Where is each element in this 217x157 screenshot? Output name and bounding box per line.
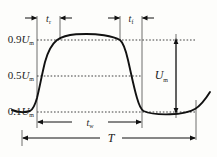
pulse-waveform-figure: 0.9Um 0.5Um 0.1Um tr tf bbox=[0, 0, 217, 157]
label-level-50: 0.5Um bbox=[8, 69, 35, 82]
fall-time-arrowhead-left bbox=[115, 16, 121, 21]
pulse-width-annotation: tw bbox=[37, 117, 142, 129]
y-axis-labels: 0.9Um 0.5Um 0.1Um bbox=[8, 33, 35, 118]
rise-time-annotation: tr bbox=[25, 13, 72, 25]
construction-lines bbox=[37, 16, 196, 140]
amplitude-arrowhead-top bbox=[174, 38, 179, 44]
pulse-waveform-curve bbox=[12, 34, 210, 114]
period-arrowhead-right bbox=[190, 136, 196, 141]
pulse-width-arrowhead-right bbox=[136, 120, 142, 125]
period-arrowhead-left bbox=[22, 136, 28, 141]
fall-time-annotation: tf bbox=[108, 13, 154, 25]
label-level-10: 0.1Um bbox=[8, 105, 35, 118]
rise-time-arrowhead-left bbox=[32, 16, 38, 21]
fall-time-arrowhead-right bbox=[142, 16, 148, 21]
label-level-90: 0.9Um bbox=[8, 33, 35, 46]
rise-time-label: tr bbox=[46, 13, 51, 25]
reference-level-lines bbox=[37, 40, 196, 112]
amplitude-annotation: Um bbox=[155, 38, 179, 114]
pulse-width-label: tw bbox=[86, 117, 94, 129]
pulse-width-arrowhead-left bbox=[37, 120, 43, 125]
fall-time-label: tf bbox=[129, 13, 134, 25]
period-label: T bbox=[108, 131, 116, 145]
period-annotation: T bbox=[22, 131, 196, 145]
rise-time-arrowhead-right bbox=[60, 16, 66, 21]
amplitude-label: Um bbox=[155, 68, 169, 83]
